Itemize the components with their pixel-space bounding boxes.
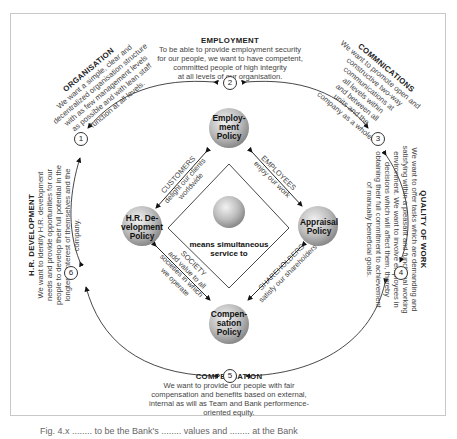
step-number-2: 2 [223,76,237,90]
step-number-5: 5 [223,369,237,383]
appraisal-policy: Appraisal Policy [290,218,348,236]
compensation-policy: Compen- sation Policy [200,310,258,337]
section-hr-development: H.R. DEVELOPMENT We want to identify H.R… [27,145,81,325]
hr-development-policy: H.R. De- velopment Policy [108,214,176,241]
globe-icon [213,196,245,228]
center-text: means simultaneous service to [184,240,274,258]
step-number-1: 1 [74,132,88,146]
step-number-3: 3 [371,132,385,146]
employment-policy: Employ- ment Policy [200,114,258,141]
step-number-4: 4 [394,266,408,280]
figure-caption: Fig. 4.x ........ to be the Bank's .....… [40,426,298,436]
step-number-6: 6 [64,266,78,280]
section-quality-of-work: QUALITY OF WORK We want to offer tasks w… [365,130,428,330]
